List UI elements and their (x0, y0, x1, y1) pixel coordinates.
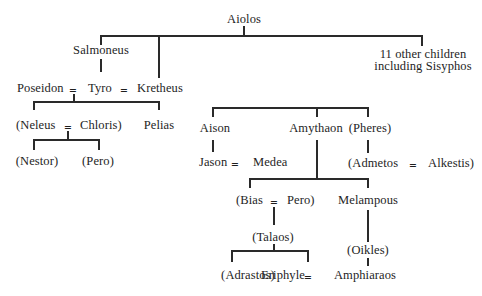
connector-line (34, 139, 99, 141)
person-pheres: (Pheres) (349, 122, 391, 135)
person-medea: Medea (253, 156, 288, 169)
connector-line (34, 101, 159, 103)
marriage-symbol: = (120, 84, 127, 97)
person-pero: (Pero) (82, 155, 114, 168)
person-amphiaraos: Amphiaraos (334, 269, 396, 282)
connector-line (158, 101, 160, 110)
person-pelias: Pelias (144, 119, 174, 132)
connector-line (367, 258, 369, 266)
person-jason: Jason (199, 156, 227, 169)
marriage-symbol: = (231, 158, 238, 171)
connector-line (212, 107, 214, 117)
connector-line (250, 178, 369, 180)
connector-line (367, 140, 369, 153)
connector-line (33, 139, 35, 150)
person-eriphyle: Eriphyle (261, 269, 305, 282)
person-salmoneus: Salmoneus (73, 44, 129, 57)
person-neleus: (Neleus (16, 119, 56, 132)
connector-line (98, 139, 100, 150)
person-talaos: (Talaos) (252, 231, 294, 244)
person-kretheus: Kretheus (137, 82, 183, 95)
connector-line (367, 178, 369, 188)
connector-line (213, 107, 369, 109)
person-alkestis: Alkestis) (428, 157, 474, 170)
connector-line (100, 59, 102, 72)
person-nestor: (Nestor) (16, 155, 58, 168)
connector-line (273, 207, 275, 225)
connector-line (307, 250, 309, 262)
person-poseidon: Poseidon (17, 82, 64, 95)
person-other-children-line2: including Sisyphos (374, 60, 471, 73)
family-tree-diagram: Aiolos Salmoneus 11 other children inclu… (0, 0, 482, 296)
connector-line (316, 107, 318, 117)
connector-line (232, 250, 308, 252)
marriage-symbol: = (409, 159, 416, 172)
marriage-symbol: = (304, 271, 311, 284)
connector-line (367, 107, 369, 117)
person-melampous: Melampous (338, 194, 398, 207)
connector-line (367, 210, 369, 242)
person-oikles: (Oikles) (347, 244, 389, 257)
connector-line (421, 35, 423, 46)
person-aiolos: Aiolos (227, 13, 261, 26)
connector-line (158, 35, 160, 78)
connector-line (316, 140, 318, 178)
person-aison: Aison (200, 122, 230, 135)
connector-line (249, 178, 251, 188)
person-amythaon: Amythaon (289, 122, 343, 135)
person-tyro: Tyro (88, 82, 112, 95)
connector-line (101, 35, 423, 37)
person-chloris: Chloris) (80, 119, 122, 132)
connector-line (212, 140, 214, 152)
person-admetos: (Admetos (348, 157, 398, 170)
connector-line (33, 101, 35, 110)
connector-line (231, 250, 233, 262)
person-bias: (Bias (236, 194, 263, 207)
person-pero-wife-of-bias: Pero) (287, 194, 315, 207)
